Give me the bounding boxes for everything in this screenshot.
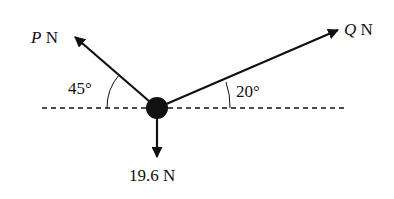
force-q-unit: N [361, 20, 373, 39]
force-diagram [0, 0, 394, 199]
angle-20-label: 20° [236, 83, 260, 100]
force-q-symbol: Q [344, 20, 356, 39]
angle-45-label: 45° [68, 80, 92, 97]
force-p-unit: N [46, 28, 58, 47]
force-p-symbol: P [31, 28, 41, 47]
angle-arc-45 [107, 75, 119, 108]
particle [146, 97, 168, 119]
weight-label: 19.6 N [129, 167, 175, 184]
force-p-label: P N [31, 29, 58, 46]
angle-arc-20 [226, 82, 230, 108]
force-q-label: Q N [344, 21, 373, 38]
